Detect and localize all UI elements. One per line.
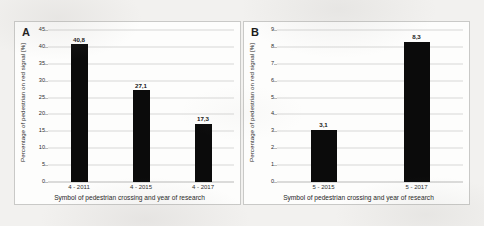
x-axis-tick-label: 4 - 2011: [48, 184, 110, 190]
bar: 27,1: [133, 90, 150, 182]
x-axis-title-a: Symbol of pedestrian crossing and year o…: [23, 194, 236, 201]
bar-slot: 40,8: [48, 30, 110, 182]
x-axis-tick-label: 4 - 2017: [172, 184, 234, 190]
y-axis-tickmark: [45, 182, 48, 183]
bar-slot: 3,1: [277, 30, 370, 182]
bar-slot: 27,1: [110, 30, 172, 182]
chart-panel-a: A Percentage of pedestrian on red signal…: [14, 21, 241, 205]
y-axis-title-a: Percentage of pedestrian on red signal […: [16, 22, 30, 182]
bar: 40,8: [71, 44, 88, 182]
plot-area-a: 40,827,117,3: [48, 30, 234, 182]
y-axis-title-text-b: Percentage of pedestrian on red signal […: [249, 42, 256, 161]
y-axis-title-text-a: Percentage of pedestrian on red signal […: [20, 42, 27, 161]
figure-container: A Percentage of pedestrian on red signal…: [0, 0, 484, 226]
x-axis-tick-label: 5 - 2017: [370, 184, 463, 190]
chart-panel-b: B Percentage of pedestrian on red signal…: [243, 21, 470, 205]
bar: 3,1: [311, 130, 337, 182]
y-axis-tick-labels-b: 0123456789: [260, 30, 274, 182]
bar-value-label: 3,1: [319, 121, 328, 128]
bar-slot: 8,3: [370, 30, 463, 182]
plot-area-b: 3,18,3: [277, 30, 463, 182]
bar-group-a: 40,827,117,3: [48, 30, 234, 182]
bar-value-label: 27,1: [135, 82, 147, 89]
plot-area-wrapper-a: 051015202530354045 40,827,117,3: [31, 30, 234, 182]
y-axis-tick-labels-a: 051015202530354045: [31, 30, 45, 182]
x-axis-tick-labels-a: 4 - 20114 - 20154 - 2017: [48, 184, 234, 190]
bar-value-label: 17,3: [197, 115, 209, 122]
x-axis-tick-label: 5 - 2015: [277, 184, 370, 190]
y-axis-title-b: Percentage of pedestrian on red signal […: [245, 22, 259, 182]
x-axis-tick-labels-b: 5 - 20155 - 2017: [277, 184, 463, 190]
bar: 17,3: [195, 124, 212, 182]
bar-slot: 17,3: [172, 30, 234, 182]
x-axis-title-b: Symbol of pedestrian crossing and year o…: [252, 194, 465, 201]
y-axis-tickmark: [274, 182, 277, 183]
bar-value-label: 40,8: [73, 36, 85, 43]
plot-area-wrapper-b: 0123456789 3,18,3: [260, 30, 463, 182]
bar: 8,3: [404, 42, 430, 182]
x-axis-tick-label: 4 - 2015: [110, 184, 172, 190]
bar-value-label: 8,3: [412, 33, 421, 40]
bar-group-b: 3,18,3: [277, 30, 463, 182]
